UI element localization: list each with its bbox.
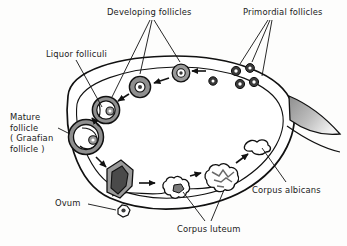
label-developing-follicles: Developing follicles [107, 7, 192, 18]
label-liquor-folliculi: Liquor folliculi [46, 49, 107, 60]
ovum-structure [118, 205, 130, 217]
primordial-follicle [246, 64, 255, 73]
primordial-follicle [235, 79, 244, 88]
developing-follicle-mid [129, 76, 150, 97]
leader-primordial-3 [262, 20, 272, 76]
mesovarium-shape [289, 96, 340, 134]
primordial-follicle [209, 77, 217, 85]
label-primordial-follicles: Primordial follicles [243, 7, 323, 18]
label-corpus-luteum: Corpus luteum [177, 224, 241, 235]
label-corpus-albicans: Corpus albicans [252, 185, 321, 196]
primordial-follicle [231, 66, 240, 75]
hilum-wedge [287, 96, 340, 152]
leader-ovum [88, 204, 116, 210]
primordial-follicle [249, 77, 258, 86]
label-mature-follicle: Mature follicle ( Graafian follicle ) [10, 112, 53, 154]
ovary-diagram-figure: Developing follicles Primordial follicle… [0, 0, 347, 246]
developing-follicle-early [172, 64, 190, 82]
developing-follicle-antral [92, 96, 119, 123]
label-ovum: Ovum [55, 198, 81, 209]
